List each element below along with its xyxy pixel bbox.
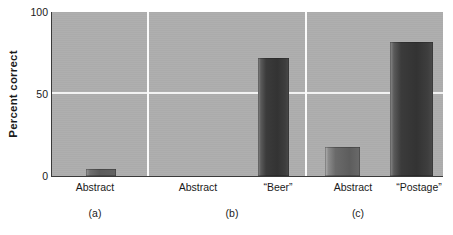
bar-panel-a-abstract: [86, 169, 116, 176]
panel-caption-b: (b): [199, 206, 265, 220]
panel-captions: (a) (b) (c): [0, 206, 453, 222]
x-axis-line: [52, 176, 443, 177]
x-label-panel-c-word: “Postage”: [385, 180, 453, 194]
bar-chart-figure: Percent correct 100 50 0 Abstract Abstra…: [0, 0, 453, 235]
panel-caption-a: (a): [62, 206, 128, 220]
bar-panel-c-postage: [390, 42, 433, 176]
plot-area: [52, 12, 443, 176]
x-axis-tick-labels: Abstract Abstract “Beer” Abstract “Posta…: [0, 180, 453, 196]
y-axis-line: [51, 12, 52, 177]
x-label-panel-a-abstract: Abstract: [53, 180, 137, 194]
y-tick-50: 50: [22, 89, 48, 100]
bar-panel-c-abstract: [325, 147, 360, 177]
bar-panel-b-beer: [258, 58, 289, 176]
gridline-50: [52, 92, 443, 94]
y-axis-title-label: Percent correct: [7, 50, 19, 137]
y-tick-100: 100: [22, 7, 48, 18]
panel-divider-a-b: [147, 12, 149, 176]
x-label-panel-c-abstract: Abstract: [313, 180, 393, 194]
panel-caption-c: (c): [325, 206, 391, 220]
y-axis-tick-labels: 100 50 0: [20, 0, 48, 235]
x-label-panel-b-word: “Beer”: [240, 180, 316, 194]
panel-divider-b-c: [305, 12, 307, 176]
x-label-panel-b-abstract: Abstract: [156, 180, 240, 194]
